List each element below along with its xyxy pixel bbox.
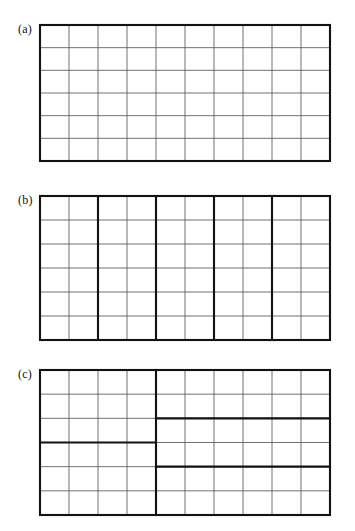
panel-b <box>37 193 333 343</box>
panel-c-label: (c) <box>18 368 32 380</box>
panel-a-label: (a) <box>18 23 32 35</box>
panel-a-grid <box>37 22 333 164</box>
panel-c-grid <box>37 367 333 518</box>
panel-c <box>37 367 333 518</box>
figure-root: (a)(b)(c) <box>0 0 355 531</box>
panel-a <box>37 22 333 164</box>
panel-b-label: (b) <box>18 194 33 206</box>
panel-b-grid <box>37 193 333 343</box>
